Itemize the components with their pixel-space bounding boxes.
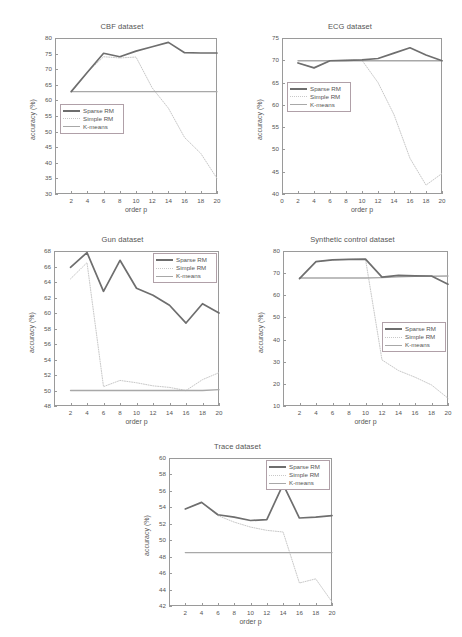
legend-label: Simple RM: [289, 471, 319, 479]
legend-label: Simple RM: [310, 93, 340, 101]
chart-panel-gun-dataset: Gun dataset48505254565860626466682468101…: [20, 233, 225, 433]
series-line-sparse-rm: [298, 48, 442, 68]
chart-legend: Sparse RMSimple RMK-means: [60, 104, 124, 134]
chart-panel-synthetic-control-dataset: Synthetic control dataset102030405060708…: [250, 233, 455, 433]
legend-swatch-sparse-rm: [385, 328, 402, 330]
legend-entry: Sparse RM: [290, 85, 347, 93]
legend-entry: Sparse RM: [385, 325, 442, 333]
chart-legend: Sparse RMSimple RMK-means: [287, 82, 351, 112]
legend-label: Sparse RM: [176, 256, 207, 264]
legend-swatch-k-means: [63, 126, 80, 127]
series-line-sparse-rm: [300, 259, 449, 284]
legend-label: K-means: [405, 341, 430, 349]
legend-label: K-means: [289, 479, 314, 487]
legend-entry: Sparse RM: [63, 107, 120, 115]
chart-panel-cbf-dataset: CBF dataset30354045505560657075802468101…: [22, 20, 222, 220]
legend-swatch-simple-rm: [63, 118, 80, 119]
series-line-k-means: [71, 390, 220, 391]
legend-swatch-k-means: [290, 104, 307, 105]
series-layer: [250, 20, 450, 220]
legend-label: Sparse RM: [405, 325, 436, 333]
legend-entry: Sparse RM: [156, 256, 213, 264]
legend-entry: Simple RM: [156, 264, 213, 272]
legend-label: Sparse RM: [289, 463, 320, 471]
legend-swatch-sparse-rm: [269, 466, 286, 468]
chart-legend: Sparse RMSimple RMK-means: [382, 322, 446, 352]
legend-swatch-k-means: [385, 345, 402, 346]
legend-label: Simple RM: [176, 264, 206, 272]
legend-label: Sparse RM: [83, 107, 114, 115]
legend-entry: Simple RM: [290, 93, 347, 101]
legend-swatch-k-means: [156, 276, 173, 277]
chart-panel-trace-dataset: Trace dataset424446485052545658602468101…: [135, 440, 340, 636]
legend-swatch-simple-rm: [156, 268, 173, 269]
legend-label: Simple RM: [83, 115, 113, 123]
legend-swatch-sparse-rm: [290, 88, 307, 90]
legend-label: K-means: [310, 101, 335, 109]
legend-entry: Sparse RM: [269, 463, 326, 471]
legend-swatch-simple-rm: [290, 96, 307, 97]
legend-entry: Simple RM: [269, 471, 326, 479]
series-line-simple-rm: [298, 60, 442, 185]
legend-entry: K-means: [269, 479, 326, 487]
legend-swatch-sparse-rm: [156, 259, 173, 261]
legend-label: Simple RM: [405, 333, 435, 341]
legend-entry: K-means: [63, 123, 120, 131]
series-line-sparse-rm: [71, 42, 217, 91]
legend-entry: Simple RM: [385, 333, 442, 341]
legend-entry: K-means: [290, 101, 347, 109]
legend-label: K-means: [176, 272, 201, 280]
legend-swatch-sparse-rm: [63, 110, 80, 112]
legend-label: Sparse RM: [310, 85, 341, 93]
legend-label: K-means: [83, 123, 108, 131]
legend-swatch-simple-rm: [385, 337, 402, 338]
legend-entry: Simple RM: [63, 115, 120, 123]
legend-swatch-simple-rm: [269, 475, 286, 476]
chart-legend: Sparse RMSimple RMK-means: [153, 253, 217, 283]
legend-entry: K-means: [385, 341, 442, 349]
legend-entry: K-means: [156, 272, 213, 280]
legend-swatch-k-means: [269, 483, 286, 484]
chart-panel-ecg-dataset: ECG dataset40455055606570750246810121416…: [250, 20, 450, 220]
chart-legend: Sparse RMSimple RMK-means: [266, 460, 330, 490]
